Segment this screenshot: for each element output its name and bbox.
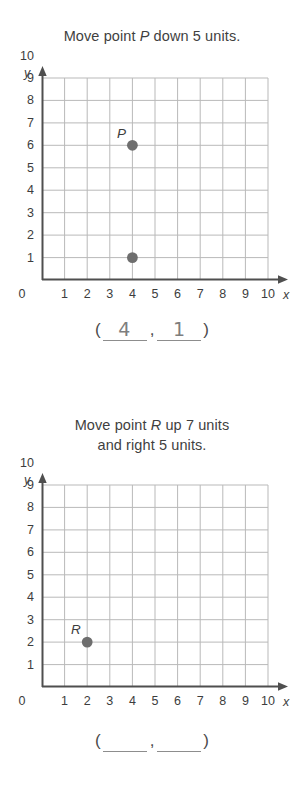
x-tick-1-7: 7 [190,287,210,301]
x-axis-label-1: x [283,288,289,302]
grid-lines-1 [42,78,268,280]
point-R [82,637,93,648]
x-tick-1-6: 6 [168,287,188,301]
origin-label-1: 0 [12,287,32,301]
y-tick-1-1: 1 [16,251,34,265]
y-tick-1-4: 4 [16,183,34,197]
x-tick-2-2: 2 [77,694,97,708]
y-tick-2-5: 5 [16,568,34,582]
x-axis-label-2: x [283,695,289,709]
problem-1: Move point P down 5 units. [0,0,304,358]
plotted-points-2 [82,637,93,648]
x-axis-arrowhead-2 [278,682,288,690]
y-tick-2-7: 7 [16,523,34,537]
problem-1-answer: (4,1) [0,318,304,358]
point-label-P: P [117,126,126,141]
axes-2 [42,479,280,687]
y-tick-1-10: 10 [10,49,34,63]
coordinate-plane-2 [0,465,304,717]
problem-2-prompt: Move point R up 7 units and right 5 unit… [0,390,304,455]
worksheet-page: Move point P down 5 units. [0,0,304,808]
coordinate-plane-1 [0,58,304,310]
x-tick-2-5: 5 [145,694,165,708]
answer-x-value-1: 4 [103,320,147,339]
prompt-text-after: down 5 units. [149,28,240,44]
y-tick-1-6: 6 [16,138,34,152]
x-tick-1-4: 4 [122,287,142,301]
y-tick-1-2: 2 [16,228,34,242]
answer-open-paren-2: ( [95,731,101,750]
x-tick-1-2: 2 [77,287,97,301]
x-tick-1-9: 9 [235,287,255,301]
y-tick-1-7: 7 [16,116,34,130]
point-label-R: R [71,622,81,637]
answer-close-paren-1: ) [203,320,209,339]
answer-comma-2: , [149,731,156,750]
x-tick-2-4: 4 [122,694,142,708]
x-tick-2-9: 9 [235,694,255,708]
x-tick-1-3: 3 [100,287,120,301]
x-tick-1-8: 8 [213,287,233,301]
y-tick-2-3: 3 [16,613,34,627]
coordinate-plane-1-svg [0,58,304,310]
y-axis-arrowhead-2 [38,473,46,483]
x-tick-1-10: 10 [258,287,278,301]
answer-x-blank-2[interactable] [103,729,147,752]
x-tick-2-3: 3 [100,694,120,708]
y-tick-1-5: 5 [16,161,34,175]
y-tick-2-6: 6 [16,545,34,559]
x-tick-2-8: 8 [213,694,233,708]
point-P-target [127,252,138,263]
point-P [127,140,138,151]
x-tick-1-5: 5 [145,287,165,301]
prompt-text-before: Move point [64,28,140,44]
grid-lines-2 [42,485,268,687]
prompt-text-line2-2: and right 5 units. [97,437,206,453]
x-tick-1-1: 1 [55,287,75,301]
answer-x-blank-1[interactable]: 4 [103,318,147,341]
y-axis-arrowhead-1 [38,66,46,76]
y-tick-1-3: 3 [16,206,34,220]
y-tick-2-9: 9 [16,478,34,492]
y-tick-2-1: 1 [16,658,34,672]
y-tick-1-9: 9 [16,71,34,85]
answer-comma-1: , [149,320,156,339]
problem-1-prompt: Move point P down 5 units. [0,0,304,46]
problem-2: Move point R up 7 units and right 5 unit… [0,390,304,769]
y-tick-1-8: 8 [16,93,34,107]
y-tick-2-8: 8 [16,500,34,514]
prompt-text-after-2: up 7 units [161,417,229,433]
answer-y-blank-2[interactable] [157,729,201,752]
axes-1 [42,72,280,280]
prompt-variable-2: R [151,417,162,433]
problem-1-graph: y x 0 1 2 3 4 5 6 7 8 9 10 1 2 3 4 5 6 7… [0,58,304,310]
answer-y-blank-1[interactable]: 1 [157,318,201,341]
x-axis-arrowhead-1 [278,275,288,283]
answer-open-paren-1: ( [95,320,101,339]
y-tick-2-10: 10 [10,456,34,470]
x-tick-2-7: 7 [190,694,210,708]
problem-2-answer: (,) [0,729,304,769]
x-tick-2-6: 6 [168,694,188,708]
x-tick-2-10: 10 [258,694,278,708]
coordinate-plane-2-svg [0,465,304,717]
problem-2-graph: y x 0 1 2 3 4 5 6 7 8 9 10 1 2 3 4 5 6 7… [0,465,304,717]
origin-label-2: 0 [12,694,32,708]
answer-y-value-1: 1 [157,320,201,339]
answer-close-paren-2: ) [203,731,209,750]
y-tick-2-4: 4 [16,590,34,604]
prompt-text-before-2: Move point [75,417,151,433]
y-tick-2-2: 2 [16,635,34,649]
x-tick-2-1: 1 [55,694,75,708]
